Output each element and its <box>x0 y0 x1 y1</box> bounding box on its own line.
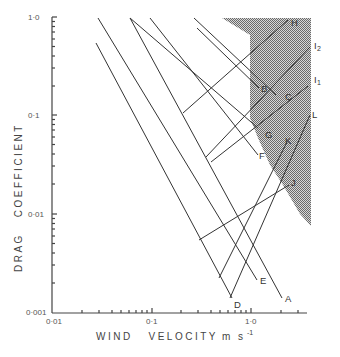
label-i2-sub: 2 <box>317 45 321 52</box>
label-g: G <box>265 129 272 140</box>
y-tick-1: 1·0 <box>28 13 40 22</box>
label-d: D <box>234 299 241 310</box>
label-j: J <box>291 177 296 188</box>
label-i1-sub: 1 <box>317 79 321 86</box>
x-axis <box>52 308 307 313</box>
y-tick-0-001: 0·001 <box>26 308 47 317</box>
line-k <box>219 142 287 278</box>
x-axis-title: WIND VELOCITY <box>96 331 218 342</box>
x-axis-unit-exponent: -1 <box>247 329 253 336</box>
x-axis-unit: m s <box>222 331 246 342</box>
x-tick-1: 1·0 <box>245 317 257 326</box>
label-c: C <box>285 91 292 102</box>
shaded-region <box>222 18 311 226</box>
y-tick-0-1: 0·1 <box>28 111 40 120</box>
y-axis <box>52 17 57 313</box>
label-l: L <box>312 109 317 120</box>
x-tick-0-01: 0·01 <box>46 317 63 326</box>
x-tick-0-1: 0·1 <box>146 317 158 326</box>
label-e: E <box>260 275 266 286</box>
line-g <box>130 18 258 128</box>
line-e <box>98 18 257 280</box>
line-f <box>150 18 258 155</box>
y-tick-0-01: 0·01 <box>28 210 45 219</box>
drag-coefficient-chart: 1·0 0·1 0·01 0·001 0·01 0·1 1·0 WIND VEL… <box>0 0 340 357</box>
line-b <box>197 28 259 88</box>
y-axis-title: DRAG COEFFICIENT <box>13 123 24 272</box>
label-h: H <box>291 17 298 28</box>
label-f: F <box>259 150 265 161</box>
label-b: B <box>261 83 267 94</box>
label-k: K <box>285 135 292 146</box>
label-a: A <box>285 293 292 304</box>
